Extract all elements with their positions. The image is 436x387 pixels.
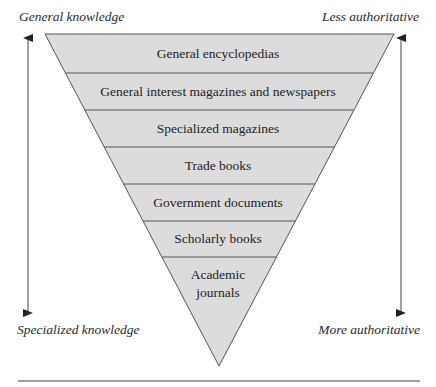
- tier-label-general-interest: General interest magazines and newspaper…: [0, 83, 436, 100]
- tier-label-general-encyclopedias: General encyclopedias: [0, 45, 436, 62]
- less-authoritative-label: Less authoritative: [322, 9, 419, 25]
- tier-label-trade-books: Trade books: [0, 157, 436, 174]
- general-knowledge-label: General knowledge: [19, 9, 124, 25]
- specialized-knowledge-label: Specialized knowledge: [17, 322, 140, 338]
- more-authoritative-label: More authoritative: [318, 322, 420, 338]
- tier-label-government-documents: Government documents: [0, 194, 436, 211]
- tier-label-academic: Academic: [0, 266, 436, 283]
- tier-label-journals: journals: [0, 284, 436, 301]
- tier-label-specialized-magazines: Specialized magazines: [0, 120, 436, 137]
- tier-label-scholarly-books: Scholarly books: [0, 230, 436, 247]
